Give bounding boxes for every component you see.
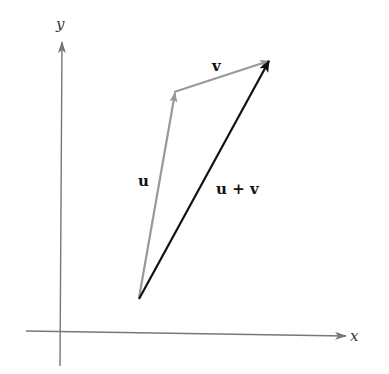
axes: x y [26, 15, 359, 366]
x-axis [26, 331, 346, 336]
y-axis-label: y [55, 15, 65, 33]
vector-v-label: v [211, 57, 222, 75]
x-axis-label: x [350, 327, 359, 345]
vector-addition-diagram: x y u v u + v [0, 0, 389, 374]
vector-u-plus-v: u + v [139, 61, 269, 299]
vector-u-label: u [138, 172, 149, 190]
y-axis [60, 42, 62, 366]
vector-u-plus-v-label: u + v [216, 180, 260, 198]
